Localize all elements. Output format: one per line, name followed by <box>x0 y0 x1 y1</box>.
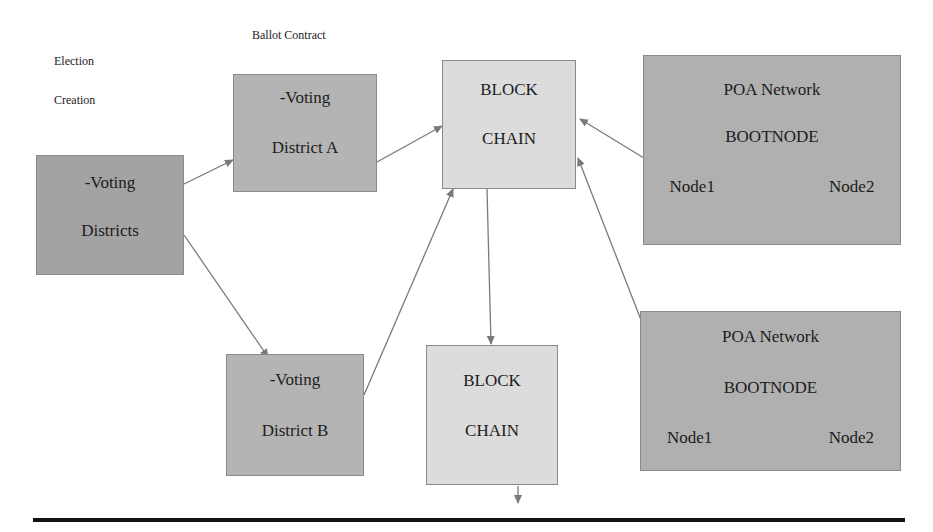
arrow-districts-to-a <box>184 160 233 184</box>
blockchain-bottom-line2: CHAIN <box>465 422 519 439</box>
blockchain-top-box: BLOCK CHAIN <box>442 60 576 189</box>
bottom-divider <box>33 518 905 522</box>
blockchain-top-line2: CHAIN <box>482 130 536 147</box>
district-a-line1: -Voting <box>280 89 331 106</box>
district-b-line1: -Voting <box>270 371 321 388</box>
poa-bottom-title: POA Network <box>722 328 819 345</box>
poa-network-top-box: POA Network BOOTNODE Node1 Node2 <box>643 55 901 245</box>
poa-top-nodes: Node1 Node2 <box>670 178 875 195</box>
voting-districts-line2: Districts <box>81 222 139 239</box>
voting-districts-box: -Voting Districts <box>36 155 184 275</box>
blockchain-bottom-box: BLOCK CHAIN <box>426 345 558 485</box>
poa-bottom-node1: Node1 <box>667 429 712 446</box>
district-b-box: -Voting District B <box>226 354 364 476</box>
arrow-poa-bottom-to-blockchain <box>578 158 641 320</box>
poa-bottom-nodes: Node1 Node2 <box>667 429 874 446</box>
blockchain-bottom-line1: BLOCK <box>463 372 521 389</box>
ballot-contract-label: Ballot Contract <box>252 28 326 43</box>
district-a-line2: District A <box>272 139 339 156</box>
poa-top-node2: Node2 <box>829 178 874 195</box>
blockchain-top-line1: BLOCK <box>480 81 538 98</box>
poa-network-bottom-box: POA Network BOOTNODE Node1 Node2 <box>640 311 901 471</box>
poa-bottom-bootnode: BOOTNODE <box>724 379 818 396</box>
election-label: Election <box>54 54 94 69</box>
poa-top-node1: Node1 <box>670 178 715 195</box>
poa-top-bootnode: BOOTNODE <box>725 128 819 145</box>
district-a-box: -Voting District A <box>233 74 377 192</box>
district-b-line2: District B <box>262 422 329 439</box>
creation-label: Creation <box>54 93 95 108</box>
arrow-a-to-blockchain <box>377 126 442 162</box>
arrow-districts-to-b <box>184 235 268 357</box>
arrow-blockchain-down <box>487 189 491 344</box>
poa-bottom-node2: Node2 <box>829 429 874 446</box>
voting-districts-line1: -Voting <box>85 174 136 191</box>
poa-top-title: POA Network <box>724 81 821 98</box>
